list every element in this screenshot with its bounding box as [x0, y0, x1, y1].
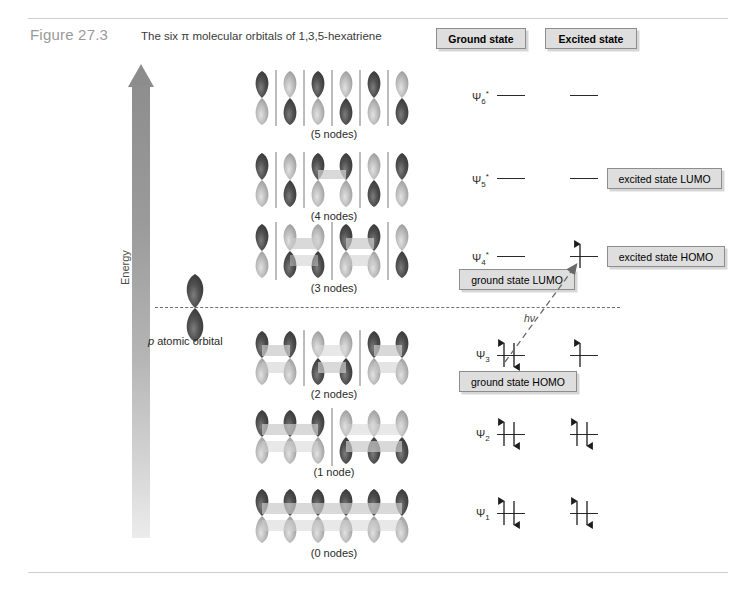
mo-lobes-psi5: [248, 152, 420, 208]
annotation-excited-state-lumo: excited state LUMO: [607, 168, 722, 189]
level-label-psi4: Ψ4*: [472, 250, 489, 267]
excited-level-psi6: [570, 95, 598, 96]
photon-energy-label: hν: [524, 312, 535, 324]
mo-picture-psi1: [248, 487, 420, 549]
mo-picture-psi6: [248, 70, 420, 130]
mo-caption-psi4: (3 nodes): [248, 282, 420, 294]
mo-caption-psi3: (2 nodes): [248, 388, 420, 400]
excited-level-psi3: [570, 355, 598, 356]
ground-level-psi1: [497, 513, 525, 514]
p-orbital-glyph: [178, 273, 212, 343]
figure-number: Figure 27.3: [30, 26, 108, 43]
mo-lobes-psi6: [248, 70, 420, 126]
column-header-excited-state: Excited state: [545, 28, 637, 49]
mo-lobes-psi3: [248, 330, 420, 386]
nonbonding-reference-line: [155, 307, 620, 308]
column-header-ground-state: Ground state: [436, 28, 526, 49]
ground-level-psi6: [497, 95, 525, 96]
annotation-ground-state-homo: ground state HOMO: [459, 371, 577, 392]
mo-caption-psi1: (0 nodes): [248, 547, 420, 559]
excited-level-psi2: [570, 434, 598, 435]
p-caption-rest: atomic orbital: [154, 335, 222, 347]
mo-picture-psi3: [248, 330, 420, 390]
ground-level-psi4: [497, 256, 525, 257]
level-label-psi5: Ψ5*: [472, 172, 489, 189]
annotation-ground-state-lumo: ground state LUMO: [459, 269, 575, 290]
level-label-psi6: Ψ6*: [472, 89, 489, 106]
top-divider: [28, 18, 728, 19]
mo-caption-psi5: (4 nodes): [248, 210, 420, 222]
excited-level-psi4: [570, 256, 598, 257]
mo-picture-psi4: [248, 222, 420, 284]
mo-picture-psi2: [248, 408, 420, 470]
level-label-psi2: Ψ2: [476, 428, 490, 443]
energy-axis-arrow: [128, 64, 154, 538]
energy-arrow-head: [128, 64, 154, 87]
ground-level-psi3: [497, 355, 525, 356]
figure-page: Figure 27.3 The six π molecular orbitals…: [0, 0, 736, 591]
level-label-psi1: Ψ1: [476, 507, 490, 522]
excited-level-psi1: [570, 513, 598, 514]
energy-axis-label: Energy: [119, 250, 131, 285]
energy-arrow-shaft: [132, 85, 150, 538]
annotation-excited-state-homo: excited state HOMO: [607, 246, 725, 267]
mo-lobes-psi4: [248, 222, 420, 280]
p-atomic-orbital-caption: p atomic orbital: [148, 335, 223, 347]
excited-level-psi5: [570, 178, 598, 179]
level-label-psi3: Ψ3: [476, 349, 490, 364]
bottom-divider: [28, 572, 728, 573]
ground-level-psi2: [497, 434, 525, 435]
mo-caption-psi6: (5 nodes): [248, 128, 420, 140]
figure-caption: The six π molecular orbitals of 1,3,5-he…: [141, 30, 382, 42]
mo-lobes-psi1: [248, 487, 420, 545]
mo-picture-psi5: [248, 152, 420, 212]
mo-caption-psi2: (1 node): [248, 466, 420, 478]
mo-lobes-psi2: [248, 408, 420, 466]
ground-level-psi5: [497, 178, 525, 179]
